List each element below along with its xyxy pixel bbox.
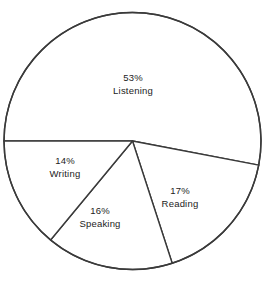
pie-chart-canvas bbox=[0, 0, 265, 282]
pie-slices-group bbox=[4, 12, 261, 269]
pie-chart: 53%Listening17%Reading16%Speaking14%Writ… bbox=[0, 0, 265, 282]
